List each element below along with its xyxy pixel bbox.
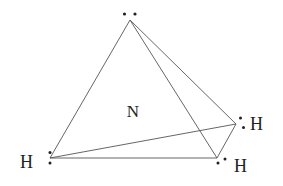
diagram-svg: N H H H xyxy=(0,0,283,186)
hydrogen-label-right: H xyxy=(250,114,263,134)
ammonia-structure-diagram: N H H H xyxy=(0,0,283,186)
tetrahedron-edges xyxy=(50,20,236,158)
lone-pair-dots xyxy=(123,12,137,15)
edge-apex-right xyxy=(130,20,236,124)
bond-dot-left xyxy=(49,151,52,154)
bond-dot-bottom-right xyxy=(224,158,227,161)
hydrogen-label-bottom-right: H xyxy=(234,156,247,176)
central-atom-label: N xyxy=(127,102,139,121)
lone-pair-dot xyxy=(123,12,126,15)
bond-dot-left xyxy=(49,162,52,165)
edge-bottom-left-right xyxy=(50,124,236,158)
edge-apex-bottom-left xyxy=(50,20,130,158)
edge-apex-bottom-right xyxy=(130,20,217,158)
lone-pair-dot xyxy=(133,12,136,15)
edge-bottom-right-right xyxy=(217,124,236,158)
bond-dot-bottom-right xyxy=(217,162,220,165)
hydrogen-label-left: H xyxy=(20,152,33,172)
bond-dot-right xyxy=(242,126,245,129)
bond-dot-right xyxy=(239,117,242,120)
